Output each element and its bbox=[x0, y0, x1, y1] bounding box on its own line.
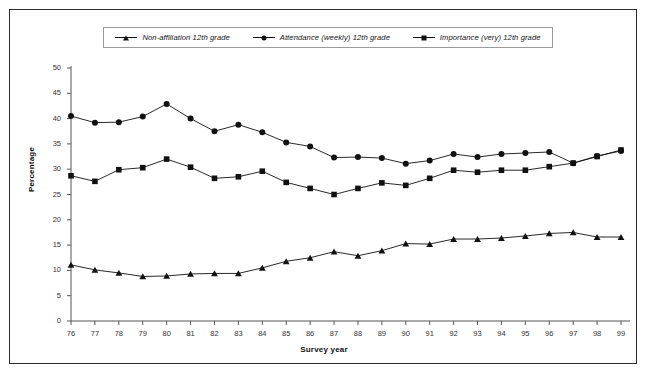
x-tick-label: 82 bbox=[203, 329, 225, 338]
x-tick-label: 95 bbox=[514, 329, 536, 338]
x-tick-label: 85 bbox=[275, 329, 297, 338]
series-triangle bbox=[68, 229, 625, 279]
x-tick-label: 89 bbox=[371, 329, 393, 338]
x-tick-label: 84 bbox=[251, 329, 273, 338]
x-tick-label: 78 bbox=[108, 329, 130, 338]
x-tick-label: 93 bbox=[467, 329, 489, 338]
x-tick-label: 87 bbox=[323, 329, 345, 338]
x-axis-title: Survey year bbox=[10, 345, 638, 354]
x-tick-label: 90 bbox=[395, 329, 417, 338]
x-tick-label: 80 bbox=[156, 329, 178, 338]
y-tick-label: 5 bbox=[35, 291, 61, 300]
plot-area: Percentage Survey year 05101520253035404… bbox=[10, 10, 638, 365]
x-tick-label: 97 bbox=[562, 329, 584, 338]
y-tick-label: 30 bbox=[35, 164, 61, 173]
x-tick-label: 88 bbox=[347, 329, 369, 338]
x-tick-label: 91 bbox=[419, 329, 441, 338]
x-tick-label: 76 bbox=[60, 329, 82, 338]
y-tick-label: 40 bbox=[35, 114, 61, 123]
y-tick-label: 50 bbox=[35, 63, 61, 72]
x-tick-label: 96 bbox=[538, 329, 560, 338]
axes bbox=[71, 66, 630, 321]
y-tick-label: 35 bbox=[35, 139, 61, 148]
series-canvas bbox=[10, 10, 638, 365]
x-tick-label: 98 bbox=[586, 329, 608, 338]
y-tick-label: 25 bbox=[35, 190, 61, 199]
x-tick-label: 94 bbox=[490, 329, 512, 338]
x-tick-label: 83 bbox=[227, 329, 249, 338]
series-square bbox=[68, 147, 624, 197]
y-tick-label: 10 bbox=[35, 265, 61, 274]
x-tick-label: 81 bbox=[180, 329, 202, 338]
y-tick-label: 45 bbox=[35, 88, 61, 97]
x-tick-label: 79 bbox=[132, 329, 154, 338]
y-tick-label: 20 bbox=[35, 215, 61, 224]
x-tick-label: 99 bbox=[610, 329, 632, 338]
x-tick-label: 77 bbox=[84, 329, 106, 338]
series-circle bbox=[68, 101, 624, 167]
y-tick-label: 0 bbox=[35, 316, 61, 325]
x-tick-label: 92 bbox=[443, 329, 465, 338]
y-tick-label: 15 bbox=[35, 240, 61, 249]
chart-figure-frame: Non-affiliation 12th grade Attendance (w… bbox=[9, 9, 637, 364]
x-tick-label: 86 bbox=[299, 329, 321, 338]
